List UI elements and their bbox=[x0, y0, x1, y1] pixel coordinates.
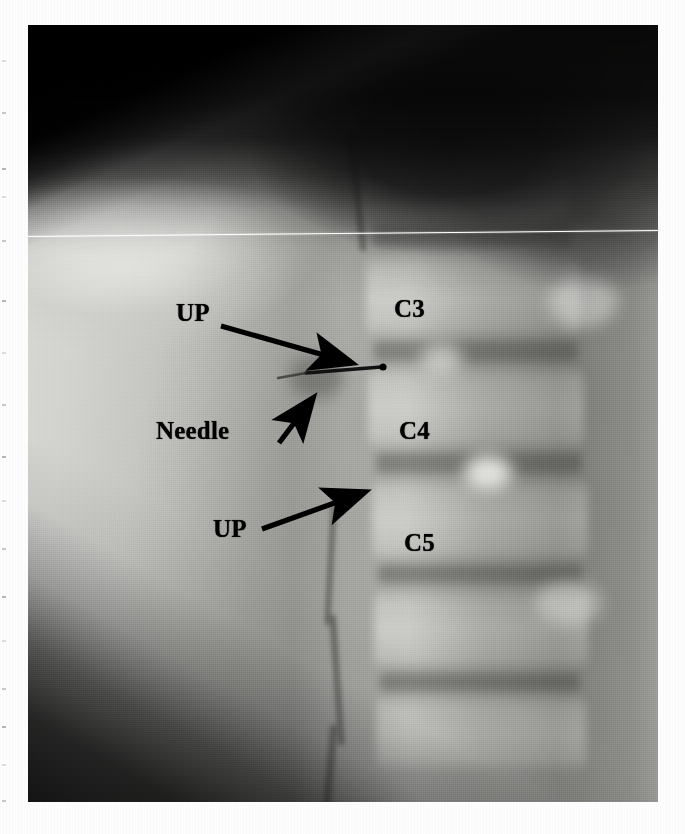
spinolaminar-line-upper bbox=[325, 505, 336, 625]
scan-edge-tick bbox=[2, 240, 6, 242]
annotation-label-needle: Needle bbox=[156, 418, 229, 443]
disc-space-c2-c3 bbox=[372, 225, 572, 247]
scanned-page: UPNeedleUPC3C4C5 bbox=[0, 0, 685, 834]
scan-edge-tick bbox=[2, 500, 6, 502]
scan-edge-tick bbox=[2, 456, 6, 458]
cervical-spine-radiograph: UPNeedleUPC3C4C5 bbox=[28, 25, 658, 802]
vertebral-body-c7 bbox=[376, 693, 586, 773]
facet-highlight-c3 bbox=[420, 343, 462, 373]
anterior-shadow bbox=[290, 355, 344, 399]
scan-edge-tick bbox=[2, 688, 6, 690]
disc-space-c6-c7 bbox=[380, 673, 580, 691]
lateral-mass-highlight-lower bbox=[536, 581, 602, 625]
facet-highlight-c4 bbox=[464, 455, 512, 489]
disc-space-c5-c6 bbox=[378, 565, 582, 583]
scan-edge-tick bbox=[2, 596, 6, 598]
arrow-up-lower bbox=[262, 492, 365, 529]
scan-edge-tick bbox=[2, 726, 6, 728]
scan-edge-tick bbox=[2, 300, 6, 302]
scan-edge-tick bbox=[2, 168, 6, 170]
scan-edge-tick bbox=[2, 404, 6, 406]
vertebral-body-c5 bbox=[372, 477, 588, 563]
scan-edge-tick bbox=[2, 60, 6, 62]
annotation-label-up-upper: UP bbox=[176, 300, 210, 325]
vertebral-body-c2 bbox=[358, 143, 568, 221]
vertebral-body-c4 bbox=[368, 365, 584, 451]
scan-edge-tick bbox=[2, 800, 6, 802]
arrow-needle bbox=[279, 398, 313, 443]
scan-edge-tick bbox=[2, 196, 6, 198]
scan-edge-tick bbox=[2, 548, 6, 550]
annotation-label-up-lower: UP bbox=[213, 516, 247, 541]
disc-space-c3-c4 bbox=[374, 341, 578, 361]
scan-edge-tick bbox=[2, 112, 6, 114]
annotation-arrows bbox=[221, 326, 365, 529]
spinolaminar-line-lower bbox=[322, 725, 338, 802]
scan-edge-tick bbox=[2, 352, 6, 354]
lateral-mass-highlight-upper bbox=[548, 275, 618, 327]
scan-edge-tick bbox=[2, 764, 6, 766]
scan-edge-tick bbox=[2, 640, 6, 642]
arrow-up-upper bbox=[221, 326, 352, 363]
